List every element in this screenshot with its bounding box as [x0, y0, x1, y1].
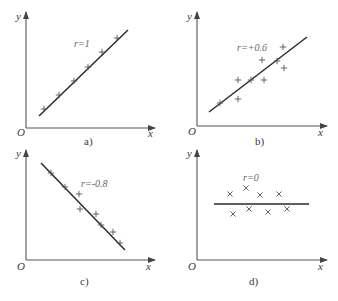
origin-label: O	[17, 260, 25, 272]
data-points	[227, 185, 289, 216]
panel-caption: b)	[255, 135, 265, 148]
cross-marker-icon	[227, 191, 232, 196]
panel-b: y O x r=+0.6 b)	[186, 10, 327, 148]
cross-marker-icon	[257, 192, 262, 197]
figure-canvas: y O x r=1 a) y O x r=+0.6 b) y O x	[0, 0, 338, 301]
x-axis-label: x	[317, 260, 323, 272]
plus-marker-icon	[259, 57, 265, 63]
data-points	[217, 44, 287, 106]
x-axis-label: x	[317, 126, 323, 138]
y-axis-label: y	[15, 10, 21, 22]
plus-marker-icon	[114, 35, 120, 41]
origin-label: O	[17, 126, 25, 138]
panel-d: y O x r=0 d)	[186, 147, 327, 288]
plus-marker-icon	[261, 77, 267, 83]
plus-marker-icon	[41, 106, 47, 112]
plus-marker-icon	[235, 77, 241, 83]
plus-marker-icon	[71, 78, 77, 84]
plus-marker-icon	[117, 240, 123, 246]
cross-marker-icon	[284, 206, 289, 211]
plus-marker-icon	[280, 44, 286, 50]
origin-label: O	[188, 125, 196, 137]
correlation-label: r=1	[74, 38, 90, 49]
cross-marker-icon	[246, 206, 251, 211]
panel-a: y O x r=1 a)	[15, 10, 155, 148]
panel-caption: c)	[80, 275, 89, 288]
cross-marker-icon	[243, 185, 248, 190]
correlation-figure: y O x r=1 a) y O x r=+0.6 b) y O x	[0, 0, 338, 301]
y-axis-label: y	[15, 147, 21, 159]
plus-marker-icon	[76, 191, 82, 197]
correlation-label: r=-0.8	[81, 178, 107, 189]
plus-marker-icon	[85, 64, 91, 70]
panel-c: y O x r=-0.8 c)	[15, 147, 155, 288]
y-axis-label: y	[186, 10, 192, 22]
panel-caption: a)	[84, 135, 93, 148]
cross-marker-icon	[265, 209, 270, 214]
cross-marker-icon	[276, 191, 281, 196]
plus-marker-icon	[281, 65, 287, 71]
plus-marker-icon	[99, 49, 105, 55]
origin-label: O	[188, 260, 196, 272]
plus-marker-icon	[93, 211, 99, 217]
plus-marker-icon	[235, 96, 241, 102]
correlation-label: r=+0.6	[237, 42, 267, 53]
plus-marker-icon	[56, 92, 62, 98]
trend-line	[41, 163, 125, 250]
x-axis-label: x	[145, 260, 151, 272]
panel-caption: d)	[249, 275, 259, 288]
y-axis-label: y	[186, 147, 192, 159]
cross-marker-icon	[230, 211, 235, 216]
x-axis-label: x	[147, 127, 153, 139]
correlation-label: r=0	[243, 172, 259, 183]
